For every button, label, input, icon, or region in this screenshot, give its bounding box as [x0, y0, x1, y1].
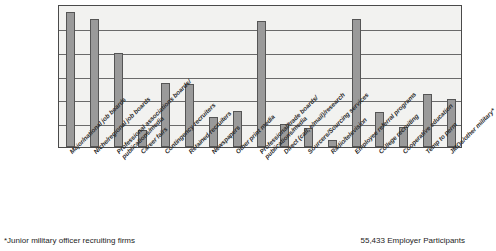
participants-count: 55,433 Employer Participants — [361, 236, 466, 245]
bar — [66, 12, 75, 147]
x-axis-labels: Major/national job boardsNiche/regional … — [0, 148, 469, 228]
footnote-text: *Junior military officer recruiting firm… — [4, 236, 135, 245]
